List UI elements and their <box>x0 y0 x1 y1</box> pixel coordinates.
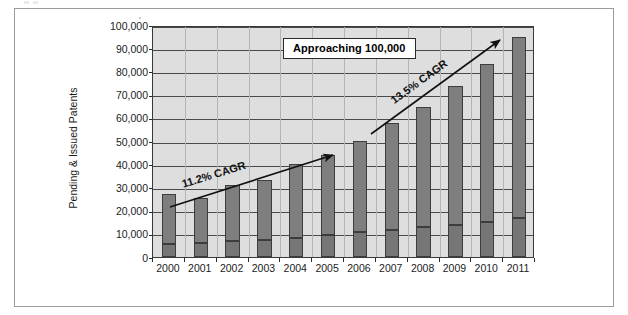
y-tick-label: 100,000 <box>92 21 148 32</box>
bar-segment-pending[interactable] <box>480 64 494 221</box>
x-tick-mark <box>439 258 440 262</box>
bar-2006[interactable] <box>353 141 367 257</box>
bar-segment-issued[interactable] <box>289 238 303 257</box>
category-separator <box>280 27 281 257</box>
y-tick-label: 70,000 <box>92 90 148 101</box>
x-tick-mark <box>279 258 280 262</box>
patents-stacked-bar-chart: Pending & Issued Patents 010,00020,00030… <box>0 0 628 315</box>
x-tick-mark <box>152 258 153 262</box>
gridline <box>153 96 533 97</box>
bar-segment-pending[interactable] <box>257 180 271 240</box>
x-tick-label-2006: 2006 <box>343 262 375 274</box>
y-tick-label: 20,000 <box>92 206 148 217</box>
y-axis-title: Pending & Issued Patents <box>67 53 79 243</box>
x-tick-mark <box>502 258 503 262</box>
bar-segment-pending[interactable] <box>162 194 176 243</box>
x-axis-tick-labels: 2000200120022003200420052006200720082009… <box>152 262 534 278</box>
category-separator <box>249 27 250 257</box>
bar-segment-pending[interactable] <box>385 123 399 231</box>
category-separator <box>217 27 218 257</box>
x-tick-label-2010: 2010 <box>470 262 502 274</box>
bar-segment-pending[interactable] <box>416 107 430 227</box>
x-tick-label-2005: 2005 <box>311 262 343 274</box>
bar-2008[interactable] <box>416 107 430 257</box>
y-tick-label: 30,000 <box>92 183 148 194</box>
bar-2005[interactable] <box>321 155 335 257</box>
category-separator <box>312 27 313 257</box>
x-tick-mark <box>184 258 185 262</box>
bar-segment-issued[interactable] <box>448 225 462 257</box>
bar-2010[interactable] <box>480 64 494 257</box>
category-separator <box>503 27 504 257</box>
bar-segment-pending[interactable] <box>289 164 303 238</box>
bar-segment-pending[interactable] <box>225 185 239 241</box>
category-separator <box>185 27 186 257</box>
gridline <box>153 235 533 236</box>
x-tick-label-2002: 2002 <box>216 262 248 274</box>
y-tick-label: 50,000 <box>92 137 148 148</box>
category-separator <box>408 27 409 257</box>
x-tick-mark <box>407 258 408 262</box>
bar-segment-pending[interactable] <box>353 141 367 232</box>
bar-2000[interactable] <box>162 194 176 257</box>
bar-2011[interactable] <box>512 37 526 257</box>
y-tick-label: 0 <box>92 253 148 264</box>
bar-2009[interactable] <box>448 86 462 257</box>
x-tick-label-2001: 2001 <box>184 262 216 274</box>
gridline <box>153 189 533 190</box>
x-tick-label-2009: 2009 <box>439 262 471 274</box>
x-tick-mark <box>470 258 471 262</box>
gridline <box>153 143 533 144</box>
x-tick-label-2011: 2011 <box>502 262 534 274</box>
bar-segment-issued[interactable] <box>257 240 271 257</box>
bar-segment-issued[interactable] <box>480 222 494 257</box>
gridline <box>153 212 533 213</box>
gridline <box>153 73 533 74</box>
bar-segment-issued[interactable] <box>225 241 239 257</box>
x-tick-mark <box>375 258 376 262</box>
bar-segment-pending[interactable] <box>321 155 335 235</box>
x-tick-label-2007: 2007 <box>375 262 407 274</box>
x-tick-label-2008: 2008 <box>407 262 439 274</box>
bar-segment-pending[interactable] <box>194 198 208 242</box>
y-tick-label: 80,000 <box>92 67 148 78</box>
bar-segment-issued[interactable] <box>194 243 208 257</box>
bar-segment-issued[interactable] <box>162 244 176 257</box>
category-separator <box>471 27 472 257</box>
bar-2001[interactable] <box>194 198 208 257</box>
bar-segment-issued[interactable] <box>321 235 335 257</box>
bar-2002[interactable] <box>225 185 239 257</box>
bar-segment-issued[interactable] <box>353 232 367 257</box>
gridline <box>153 166 533 167</box>
bar-segment-pending[interactable] <box>512 37 526 218</box>
x-tick-mark <box>311 258 312 262</box>
bar-segment-pending[interactable] <box>448 86 462 225</box>
x-tick-label-2000: 2000 <box>152 262 184 274</box>
plot-area <box>152 26 534 258</box>
y-tick-label: 60,000 <box>92 113 148 124</box>
bar-segment-issued[interactable] <box>385 230 399 257</box>
bar-2007[interactable] <box>385 123 399 257</box>
bar-segment-issued[interactable] <box>416 227 430 257</box>
y-tick-label: 90,000 <box>92 44 148 55</box>
y-tick-label: 10,000 <box>92 229 148 240</box>
x-tick-mark <box>216 258 217 262</box>
x-tick-mark <box>534 258 535 262</box>
gridline <box>153 119 533 120</box>
x-tick-label-2003: 2003 <box>248 262 280 274</box>
bar-2003[interactable] <box>257 180 271 257</box>
y-axis-tick-labels: 010,00020,00030,00040,00050,00060,00070,… <box>92 18 148 266</box>
category-separator <box>344 27 345 257</box>
bar-2004[interactable] <box>289 164 303 257</box>
annotation-approaching-callout: Approaching 100,000 <box>283 38 416 59</box>
category-separator <box>376 27 377 257</box>
x-tick-mark <box>343 258 344 262</box>
y-tick-label: 40,000 <box>92 160 148 171</box>
bar-segment-issued[interactable] <box>512 218 526 257</box>
x-tick-label-2004: 2004 <box>279 262 311 274</box>
x-tick-mark <box>248 258 249 262</box>
gridline <box>153 27 533 28</box>
